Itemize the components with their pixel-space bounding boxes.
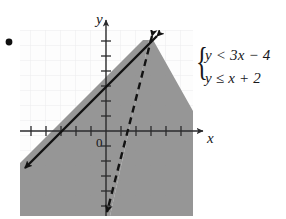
x-axis-label: x	[206, 130, 214, 146]
bullet-point-icon	[6, 39, 13, 46]
inequality-graph-figure: y x 0	[0, 0, 286, 219]
system-of-inequalities: { y < 3x − 4 y ≤ x + 2	[196, 44, 286, 102]
inequality-first: y < 3x − 4	[205, 47, 271, 64]
y-axis-label: y	[94, 11, 103, 27]
origin-label: 0	[96, 135, 103, 150]
inequality-second: y ≤ x + 2	[205, 70, 261, 87]
